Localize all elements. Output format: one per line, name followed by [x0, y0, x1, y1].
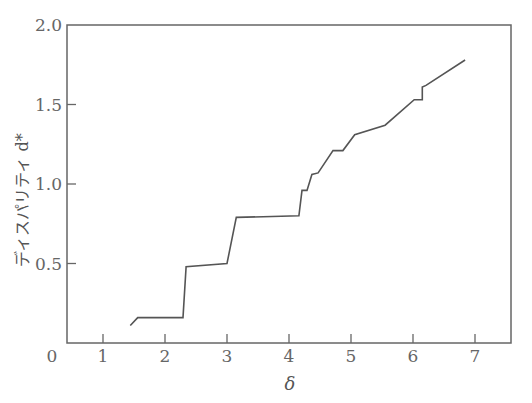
data-line [130, 60, 465, 326]
x-tick-label: 0 [47, 346, 58, 366]
disparity-chart: 01234567 0.51.01.52.0 δ ディスパリティ d* [0, 0, 532, 403]
y-tick-label: 0.5 [35, 254, 62, 274]
x-tick-label: 3 [222, 346, 233, 366]
y-tick-label: 2.0 [35, 15, 62, 35]
x-axis-title: δ [285, 373, 296, 394]
x-tick-label: 4 [284, 346, 295, 366]
x-tick-label: 1 [98, 346, 109, 366]
x-tick-label: 5 [346, 346, 357, 366]
x-tick-label: 2 [160, 346, 171, 366]
x-tick-label: 6 [408, 346, 419, 366]
y-tick-label: 1.5 [35, 95, 62, 115]
y-axis-title: ディスパリティ d* [13, 133, 32, 266]
y-axis-ticks: 0.51.01.52.0 [35, 15, 76, 274]
x-axis-ticks: 01234567 [47, 334, 481, 366]
y-tick-label: 1.0 [35, 174, 62, 194]
x-tick-label: 7 [470, 346, 481, 366]
